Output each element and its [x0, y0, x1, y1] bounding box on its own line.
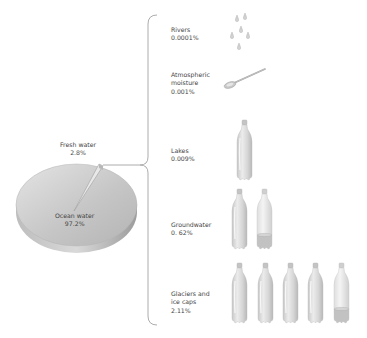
- bottle-icon: [308, 263, 323, 323]
- glaciers-name-line1: Glaciers and: [171, 290, 210, 298]
- pie-slice-ocean-water: [16, 164, 137, 246]
- atmospheric-moisture-name-line2: moisture: [171, 79, 210, 87]
- bottle-icon: [232, 263, 247, 323]
- atmospheric-moisture-label: Atmospheric moisture 0.001%: [171, 71, 210, 96]
- glaciers-bottles: [232, 263, 349, 323]
- glaciers-label: Glaciers and ice caps 2.11%: [171, 290, 210, 315]
- groundwater-value: 0. 62%: [171, 229, 211, 237]
- bottle-icon-partial: [257, 189, 272, 249]
- rivers-label: Rivers 0.0001%: [171, 26, 199, 43]
- bottle-icon-partial: [334, 263, 349, 323]
- atmospheric-moisture-name-line1: Atmospheric: [171, 71, 210, 79]
- groundwater-label: Groundwater 0. 62%: [171, 221, 211, 238]
- lakes-bottles: [237, 120, 252, 180]
- rivers-name: Rivers: [171, 26, 199, 34]
- bottle-icon: [237, 120, 252, 180]
- glaciers-name-line2: ice caps: [171, 298, 210, 306]
- brace-lower: [140, 165, 157, 325]
- brace-upper: [140, 15, 157, 165]
- fresh-water-name: Fresh water: [60, 141, 96, 149]
- atmospheric-moisture-value: 0.001%: [171, 88, 210, 96]
- ocean-water-label: Ocean water 97.2%: [55, 212, 94, 229]
- lakes-value: 0.009%: [171, 155, 195, 163]
- lakes-label: Lakes 0.009%: [171, 147, 195, 164]
- bottle-icon: [258, 263, 273, 323]
- glaciers-value: 2.11%: [171, 307, 210, 315]
- ocean-water-value: 97.2%: [55, 220, 94, 228]
- bottle-icon: [232, 189, 247, 249]
- ocean-water-name: Ocean water: [55, 212, 94, 220]
- lakes-name: Lakes: [171, 147, 195, 155]
- pie-chart: [16, 164, 137, 253]
- bracket: [103, 15, 157, 325]
- groundwater-name: Groundwater: [171, 221, 211, 229]
- spoon-icon: [223, 69, 265, 90]
- water-drops-icon: [230, 13, 249, 50]
- rivers-value: 0.0001%: [171, 34, 199, 42]
- groundwater-bottles: [232, 189, 272, 249]
- fresh-water-value: 2.8%: [60, 149, 96, 157]
- fresh-water-label: Fresh water 2.8%: [60, 141, 96, 158]
- diagram-graphics: [0, 0, 367, 338]
- bottle-icon: [283, 263, 298, 323]
